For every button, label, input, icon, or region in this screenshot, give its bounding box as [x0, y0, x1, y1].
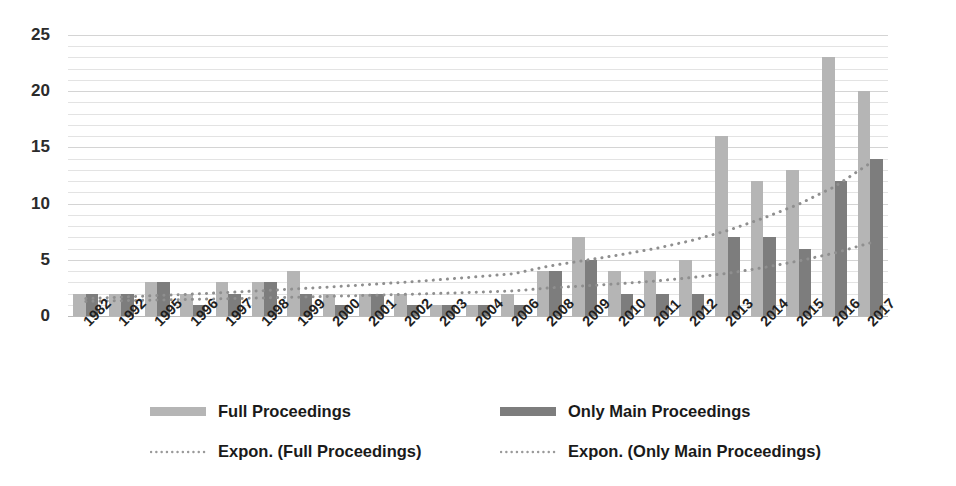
bar-group [572, 35, 597, 316]
bar-only-main-proceedings[interactable] [835, 181, 847, 316]
y-axis-tick-label: 20 [31, 81, 50, 101]
legend-label-expon-only-main-proceedings: Expon. (Only Main Proceedings) [568, 442, 821, 461]
y-axis-tick-label: 25 [31, 25, 50, 45]
bar-group [216, 35, 241, 316]
y-axis-tick-label: 0 [41, 306, 50, 326]
bar-group [786, 35, 811, 316]
bar-only-main-proceedings[interactable] [870, 159, 882, 316]
bar-full-proceedings[interactable] [216, 282, 228, 316]
legend-label-full-proceedings: Full Proceedings [218, 402, 351, 421]
chart-container: 0510152025 19821992199519961997199819992… [0, 0, 956, 486]
legend-item-expon-full-proceedings[interactable]: Expon. (Full Proceedings) [150, 442, 422, 461]
y-axis-labels: 0510152025 [0, 35, 60, 316]
legend-dotted-line-icon [500, 447, 556, 456]
y-axis-tick-label: 15 [31, 137, 50, 157]
legend-label-expon-full-proceedings: Expon. (Full Proceedings) [218, 442, 422, 461]
bar-group [73, 35, 98, 316]
bar-group [394, 35, 419, 316]
bar-full-proceedings[interactable] [822, 57, 834, 316]
y-axis-tick-label: 10 [31, 194, 50, 214]
bar-group [679, 35, 704, 316]
bar-group [537, 35, 562, 316]
x-axis-labels: 1982199219951996199719981999200020012002… [68, 318, 888, 388]
y-axis-tick-label: 5 [41, 250, 50, 270]
bar-group [180, 35, 205, 316]
bar-group [858, 35, 883, 316]
bar-group [287, 35, 312, 316]
bar-group [751, 35, 776, 316]
bar-full-proceedings[interactable] [145, 282, 157, 316]
bar-group [252, 35, 277, 316]
bar-group [822, 35, 847, 316]
bar-full-proceedings[interactable] [786, 170, 798, 316]
plot-area [68, 35, 888, 316]
legend-swatch-dark-icon [500, 407, 556, 416]
legend-label-only-main-proceedings: Only Main Proceedings [568, 402, 750, 421]
bar-group [644, 35, 669, 316]
bar-group [145, 35, 170, 316]
chart-legend: Full Proceedings Only Main Proceedings E… [150, 402, 850, 472]
bar-group [466, 35, 491, 316]
bar-group [715, 35, 740, 316]
bar-group [359, 35, 384, 316]
legend-item-only-main-proceedings[interactable]: Only Main Proceedings [500, 402, 750, 421]
bar-group [501, 35, 526, 316]
bar-group [430, 35, 455, 316]
legend-item-full-proceedings[interactable]: Full Proceedings [150, 402, 351, 421]
bar-full-proceedings[interactable] [751, 181, 763, 316]
legend-item-expon-only-main-proceedings[interactable]: Expon. (Only Main Proceedings) [500, 442, 821, 461]
bar-full-proceedings[interactable] [858, 91, 870, 316]
bar-full-proceedings[interactable] [715, 136, 727, 316]
bar-group [109, 35, 134, 316]
bar-full-proceedings[interactable] [252, 282, 264, 316]
bar-group [323, 35, 348, 316]
legend-swatch-light-icon [150, 407, 206, 416]
bars-layer [68, 35, 888, 316]
bar-group [608, 35, 633, 316]
legend-dotted-line-icon [150, 447, 206, 456]
